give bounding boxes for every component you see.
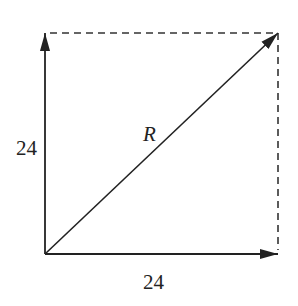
resultant-label: R (143, 124, 156, 145)
vector-diagram: 24 24 R (0, 0, 298, 306)
horizontal-magnitude-label: 24 (143, 272, 164, 293)
vertical-magnitude-label: 24 (16, 138, 37, 159)
diagram-svg (0, 0, 298, 306)
resultant-vector (45, 33, 278, 254)
